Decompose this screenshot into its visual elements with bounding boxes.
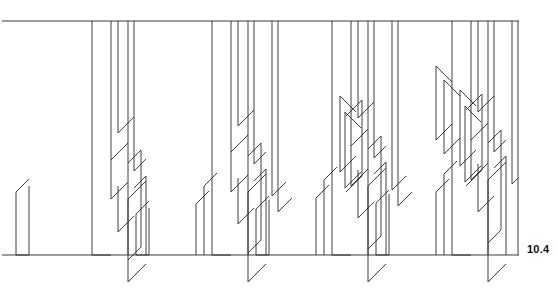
line-art-plot <box>0 0 558 295</box>
figure-canvas: 10.4 <box>0 0 558 295</box>
plot-background <box>0 0 558 295</box>
figure-number-label: 10.4 <box>527 243 549 255</box>
